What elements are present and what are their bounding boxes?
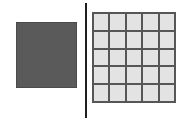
- grid-cell: [110, 67, 124, 83]
- grid-cell: [110, 50, 124, 66]
- grid-cell: [127, 32, 141, 48]
- grid-cell: [110, 14, 124, 30]
- grid-cell: [143, 32, 157, 48]
- cell-grid: [92, 12, 176, 103]
- comparison-figure: [0, 0, 185, 121]
- grid-cell: [94, 14, 108, 30]
- grid-cell: [127, 14, 141, 30]
- grid-cell: [160, 50, 174, 66]
- grid-cell: [127, 50, 141, 66]
- solid-square-shape: [16, 22, 77, 88]
- grid-cell: [160, 14, 174, 30]
- grid-cell: [127, 85, 141, 101]
- grid-cell: [160, 85, 174, 101]
- grid-cell: [143, 50, 157, 66]
- grid-cell: [94, 32, 108, 48]
- grid-cell: [94, 50, 108, 66]
- grid-cell: [160, 32, 174, 48]
- grid-cell: [160, 67, 174, 83]
- grid-cell: [94, 67, 108, 83]
- grid-cell: [110, 85, 124, 101]
- grid-cell: [143, 14, 157, 30]
- left-panel: [0, 0, 85, 121]
- grid-cell: [143, 67, 157, 83]
- grid-cell: [127, 67, 141, 83]
- right-panel: [85, 0, 185, 121]
- grid-cell: [94, 85, 108, 101]
- grid-cell: [110, 32, 124, 48]
- grid-cell: [143, 85, 157, 101]
